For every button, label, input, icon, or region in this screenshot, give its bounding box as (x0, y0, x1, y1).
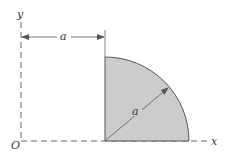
radius-dimension-label: a (132, 105, 139, 118)
quarter-circle-area (105, 57, 189, 141)
origin-label: O (11, 139, 20, 152)
quarter-circle-diagram: y x O a a (0, 0, 229, 155)
y-axis-label: y (16, 8, 24, 21)
offset-dimension-label: a (60, 30, 67, 43)
x-axis-label: x (211, 135, 218, 148)
